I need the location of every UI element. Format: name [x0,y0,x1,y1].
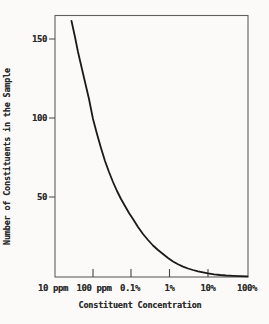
y-tick-label-50: 50 [21,192,47,202]
y-axis-ticks [49,39,55,197]
x-tick-label-10ppm: 10 ppm [31,283,75,293]
x-tick-label-10pct: 10% [186,283,230,293]
x-tick-label-1pct: 1% [148,283,192,293]
x-tick-label-0.1pct: 0.1% [108,283,152,293]
scanned-chart-figure: 150 100 50 10 ppm 100 ppm 0.1% 1% 10% 10… [0,0,269,324]
plot-border [55,16,248,278]
y-axis-title: Number of Constituents in the Sample [2,81,12,245]
plot-area [0,0,269,324]
x-tick-label-100pct: 100% [225,283,269,293]
x-axis-title: Constituent Concentration [55,300,225,310]
y-tick-label-100: 100 [21,113,47,123]
constituents-curve [72,21,248,276]
y-tick-label-150: 150 [21,34,47,44]
